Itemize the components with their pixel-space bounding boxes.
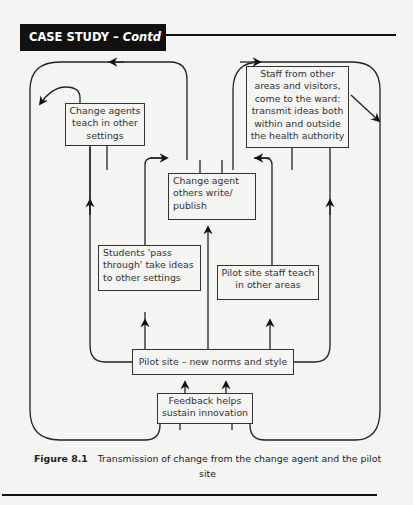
box-pilot-staff-teach: Pilot site staff teach in other areas (217, 265, 319, 300)
box-students: Students 'pass through' take ideas to ot… (98, 245, 201, 291)
box-feedback: Feedback helps sustain innovation (157, 393, 253, 424)
figure-caption-text: Transmission of change from the change a… (98, 453, 381, 479)
flow-diagram-connectors (0, 0, 413, 505)
box-change-agents-teach: Change agents teach in other settings (65, 103, 145, 146)
box-pilot-site: Pilot site – new norms and style (132, 349, 294, 375)
figure-caption: Figure 8.1Transmission of change from th… (30, 451, 385, 481)
box-staff-visitors: Staff from other areas and visitors, com… (246, 66, 349, 148)
figure-label: Figure 8.1 (34, 453, 88, 464)
box-change-agent-others: Change agent others write/ publish (168, 173, 256, 220)
bottom-divider (2, 494, 377, 496)
